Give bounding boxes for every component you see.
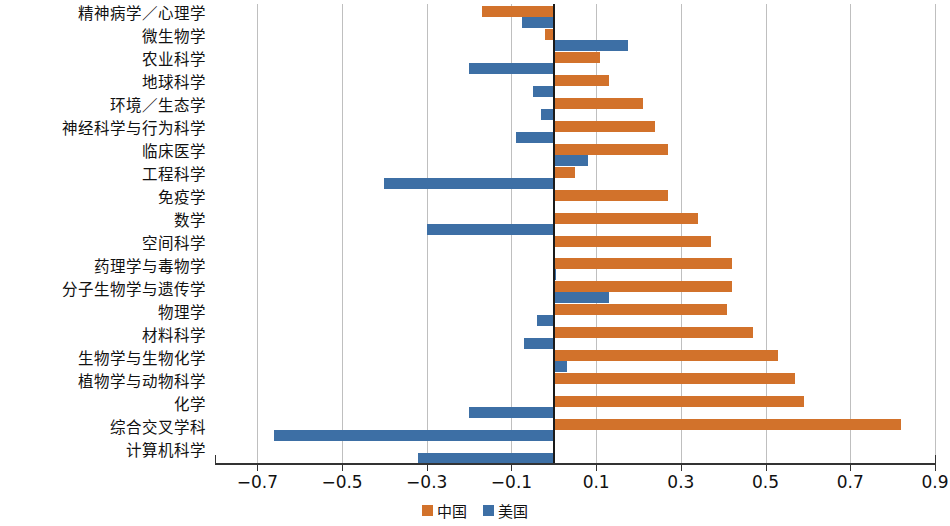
x-tick-label: 0.1 (583, 472, 610, 492)
bar-row (215, 256, 935, 279)
category-label: 地球科学 (142, 76, 206, 92)
bar-china (554, 121, 656, 132)
bar-row (215, 50, 935, 73)
x-tick (596, 463, 597, 471)
legend-label: 美国 (498, 500, 528, 521)
bar-china (554, 258, 732, 269)
bar-row (215, 142, 935, 165)
bar-china (554, 304, 728, 315)
bar-row (215, 394, 935, 417)
bar-china (554, 419, 901, 430)
x-tick (850, 463, 851, 471)
bar-row (215, 417, 935, 440)
chart-legend: 中国美国 (0, 500, 950, 521)
bar-row (215, 302, 935, 325)
x-tick (511, 463, 512, 471)
category-label: 环境／生态学 (110, 99, 206, 115)
x-tick (257, 463, 258, 471)
legend-swatch-usa (483, 505, 494, 516)
bar-china (554, 213, 698, 224)
x-tick (935, 463, 936, 471)
bar-chart: 精神病学／心理学微生物学农业科学地球科学环境／生态学神经科学与行为科学临床医学工… (0, 0, 950, 526)
x-tick-label: 0.7 (837, 472, 864, 492)
x-axis-start-tick (215, 455, 216, 465)
x-tick-label: −0.3 (406, 472, 447, 492)
bar-china (554, 144, 668, 155)
category-label: 植物学与动物科学 (78, 375, 206, 391)
category-label: 化学 (174, 398, 206, 414)
bar-china (554, 52, 601, 63)
category-label: 物理学 (158, 306, 206, 322)
category-label: 空间科学 (142, 237, 206, 253)
bar-row (215, 27, 935, 50)
gridline-0p9 (935, 4, 936, 463)
bar-row (215, 234, 935, 257)
category-label: 微生物学 (142, 30, 206, 46)
x-tick-label: −0.7 (237, 472, 278, 492)
zero-reference-line (553, 4, 555, 463)
category-label: 计算机科学 (126, 444, 206, 460)
category-label: 工程科学 (142, 168, 206, 184)
category-label: 药理学与毒物学 (94, 260, 206, 276)
bar-china (554, 373, 795, 384)
bar-row (215, 211, 935, 234)
category-axis-labels: 精神病学／心理学微生物学农业科学地球科学环境／生态学神经科学与行为科学临床医学工… (0, 4, 206, 463)
bar-china (554, 350, 778, 361)
x-axis-tick-labels: −0.7−0.5−0.3−0.10.10.30.50.70.9 (0, 472, 950, 498)
bar-row (215, 73, 935, 96)
x-tick (427, 463, 428, 471)
category-label: 农业科学 (142, 53, 206, 69)
bar-china (554, 396, 804, 407)
bar-row (215, 96, 935, 119)
x-tick (766, 463, 767, 471)
category-label: 生物学与生物化学 (78, 352, 206, 368)
bar-row (215, 165, 935, 188)
bar-rows (215, 4, 935, 463)
x-axis-line (215, 463, 936, 465)
x-tick-label: 0.9 (921, 472, 948, 492)
x-tick-label: 0.3 (667, 472, 694, 492)
category-label: 免疫学 (158, 191, 206, 207)
legend-item[interactable]: 中国 (422, 500, 467, 521)
legend-swatch-china (422, 505, 433, 516)
bar-china (554, 190, 668, 201)
category-label: 综合交叉学科 (110, 421, 206, 437)
bar-row (215, 279, 935, 302)
bar-row (215, 440, 935, 463)
bar-china (554, 98, 643, 109)
category-label: 精神病学／心理学 (78, 7, 206, 23)
category-label: 数学 (174, 214, 206, 230)
x-tick-label: −0.5 (321, 472, 362, 492)
x-tick (681, 463, 682, 471)
bar-row (215, 4, 935, 27)
legend-label: 中国 (437, 500, 467, 521)
plot-area (215, 4, 935, 463)
bar-china (554, 236, 711, 247)
bar-china (554, 281, 732, 292)
category-label: 材料科学 (142, 329, 206, 345)
bar-china (554, 75, 609, 86)
bar-row (215, 119, 935, 142)
bar-china (554, 327, 753, 338)
bar-china (554, 167, 575, 178)
bar-china (482, 6, 554, 17)
bar-row (215, 348, 935, 371)
x-tick-label: 0.5 (752, 472, 779, 492)
legend-item[interactable]: 美国 (483, 500, 528, 521)
category-label: 神经科学与行为科学 (62, 122, 206, 138)
x-tick (342, 463, 343, 471)
x-tick-label: −0.1 (491, 472, 532, 492)
category-label: 分子生物学与遗传学 (62, 283, 206, 299)
category-label: 临床医学 (142, 145, 206, 161)
bar-row (215, 188, 935, 211)
bar-row (215, 371, 935, 394)
bar-row (215, 325, 935, 348)
